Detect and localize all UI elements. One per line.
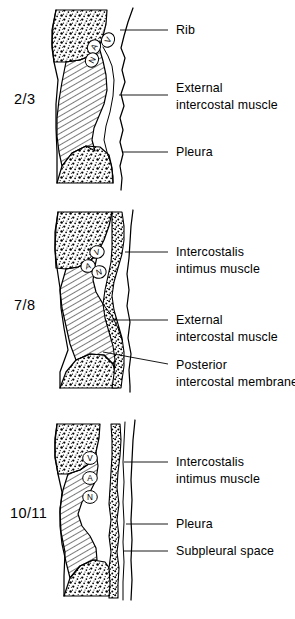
- label-subpleural-space: Subpleural space: [176, 544, 274, 558]
- neurovascular-bundle: V A N: [83, 452, 98, 504]
- label-intercostalis-intimus-muscle-line2: intimus muscle: [176, 472, 260, 486]
- label-external-intercostal-muscle-line2: intercostal muscle: [176, 330, 278, 344]
- subpleural-space-line: [123, 422, 125, 600]
- label-posterior-intercostal-membrane-line1: Posterior: [176, 358, 227, 372]
- vessel-label-a: A: [87, 474, 93, 483]
- level-label-10-11: 10/11: [10, 505, 47, 521]
- anatomy-figure: V A N 2/3 Rib External intercostal muscl…: [0, 0, 295, 619]
- label-external-intercostal-muscle-line2: intercostal muscle: [176, 98, 278, 112]
- vessel-label-n: N: [87, 493, 93, 502]
- vessel-label-v: V: [87, 454, 93, 463]
- label-intercostalis-intimus-muscle-line1: Intercostalis: [176, 245, 244, 259]
- rib-upper-bone: [55, 212, 112, 269]
- panel-7-8: V A N 7/8 Intercostalis intimus muscle E…: [14, 210, 295, 392]
- diagram-canvas: V A N 2/3 Rib External intercostal muscl…: [0, 0, 295, 619]
- level-label-7-8: 7/8: [14, 297, 35, 313]
- label-rib: Rib: [176, 23, 195, 37]
- panel-10-11: V A N 10/11 Intercostalis intimus muscle…: [10, 420, 274, 600]
- intercostalis-intimus-muscle: [109, 424, 121, 598]
- label-posterior-intercostal-membrane-line2: intercostal membrane: [176, 375, 295, 389]
- label-pleura: Pleura: [176, 145, 213, 159]
- pleura-line: [120, 8, 133, 190]
- label-intercostalis-intimus-muscle-line2: intimus muscle: [176, 262, 260, 276]
- label-intercostalis-intimus-muscle-line1: Intercostalis: [176, 455, 244, 469]
- label-external-intercostal-muscle-line1: External: [176, 81, 223, 95]
- label-external-intercostal-muscle-line1: External: [176, 313, 223, 327]
- pleura-line: [127, 210, 133, 392]
- label-pleura: Pleura: [176, 517, 213, 531]
- level-label-2-3: 2/3: [14, 91, 35, 107]
- pleura-line: [131, 420, 135, 600]
- panel-2-3: V A N 2/3 Rib External intercostal muscl…: [14, 8, 278, 190]
